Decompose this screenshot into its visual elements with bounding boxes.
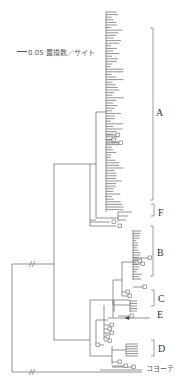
phylogenetic-tree	[0, 0, 179, 385]
clade-label-e: E	[157, 310, 163, 320]
clade-label-d: D	[158, 344, 165, 354]
clade-label-b: B	[157, 248, 164, 258]
clade-label-f: F	[158, 208, 164, 218]
outgroup-label: コヨーテ	[146, 363, 174, 373]
clade-label-a: A	[156, 108, 163, 118]
clade-label-c: C	[158, 294, 165, 304]
